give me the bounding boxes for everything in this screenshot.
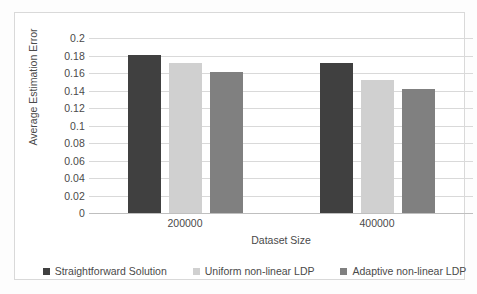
y-axis-tick-label: 0.12	[64, 102, 85, 114]
chart-frame: Average Estimation Error 00.020.040.060.…	[14, 12, 465, 280]
legend-label: Adaptive non-linear LDP	[352, 265, 466, 277]
x-axis-tick-labels: 200000400000	[89, 217, 473, 233]
y-axis-tick-label: 0.18	[64, 50, 85, 62]
bar	[402, 89, 435, 213]
y-axis-tick-label: 0	[79, 207, 85, 219]
gridline	[89, 38, 473, 39]
legend-label: Straightforward Solution	[55, 265, 167, 277]
chart-figure: Average Estimation Error 00.020.040.060.…	[0, 0, 477, 294]
y-axis-tick-label: 0.06	[64, 155, 85, 167]
bar	[210, 72, 243, 213]
y-axis-tick-label: 0.14	[64, 85, 85, 97]
x-axis-tick-label: 400000	[359, 217, 394, 229]
bar	[320, 63, 353, 214]
y-axis-tick-label: 0.2	[70, 32, 85, 44]
chart-legend: Straightforward SolutionUniform non-line…	[29, 265, 477, 277]
y-axis-tick-label: 0.16	[64, 67, 85, 79]
legend-item: Adaptive non-linear LDP	[340, 265, 466, 277]
legend-swatch-icon	[43, 268, 50, 275]
bar	[169, 63, 202, 213]
y-axis-tick-label: 0.08	[64, 137, 85, 149]
bar	[128, 55, 161, 213]
x-axis-baseline	[89, 213, 473, 214]
plot-area	[89, 38, 473, 213]
y-axis-tick-label: 0.02	[64, 190, 85, 202]
y-axis-title: Average Estimation Error	[27, 7, 39, 167]
legend-swatch-icon	[340, 268, 347, 275]
legend-item: Straightforward Solution	[43, 265, 167, 277]
y-axis-tick-labels: 00.020.040.060.080.10.120.140.160.180.2	[39, 38, 85, 213]
y-axis-tick-label: 0.1	[70, 120, 85, 132]
legend-item: Uniform non-linear LDP	[193, 265, 315, 277]
legend-label: Uniform non-linear LDP	[205, 265, 315, 277]
y-axis-tick-label: 0.04	[64, 172, 85, 184]
bar	[361, 80, 394, 213]
x-axis-title: Dataset Size	[89, 234, 473, 246]
x-axis-tick-label: 200000	[167, 217, 202, 229]
legend-swatch-icon	[193, 268, 200, 275]
